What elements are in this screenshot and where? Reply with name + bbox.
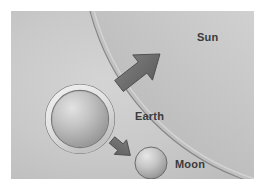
moon-label: Moon [175, 159, 205, 170]
diagram-scene: Sun Earth Moon [11, 11, 254, 179]
moon-body [135, 147, 167, 179]
earth-body [46, 85, 115, 154]
sun-label: Sun [197, 32, 218, 43]
earth-label: Earth [135, 111, 164, 122]
moon-sphere [135, 147, 167, 179]
diagram-figure: Sun Earth Moon [0, 0, 265, 190]
